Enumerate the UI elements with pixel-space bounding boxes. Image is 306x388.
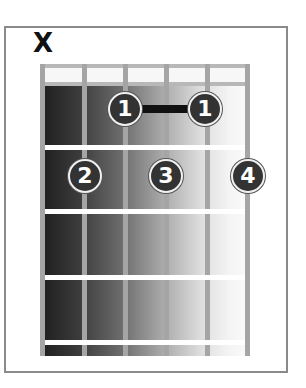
fret-line-4 bbox=[45, 340, 245, 345]
fret-line-2 bbox=[45, 209, 245, 214]
barre-bar bbox=[140, 105, 190, 113]
fret-line-3 bbox=[45, 275, 245, 280]
finger-dot-3-string-3: 3 bbox=[149, 159, 183, 193]
nut-highlight bbox=[45, 68, 245, 82]
muted-string-marker: X bbox=[31, 30, 55, 56]
finger-dot-1-string-4: 1 bbox=[108, 92, 142, 126]
finger-dot-4-string-1: 4 bbox=[231, 159, 265, 193]
fret-line-1 bbox=[45, 145, 245, 150]
finger-dot-2-string-5: 2 bbox=[68, 159, 102, 193]
finger-dot-1-string-2: 1 bbox=[188, 92, 222, 126]
string-1 bbox=[245, 64, 250, 356]
